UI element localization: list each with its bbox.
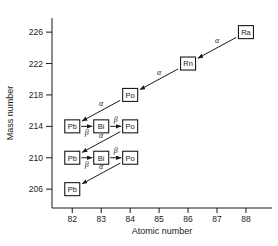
nuclide-symbol-label: Po — [126, 154, 135, 163]
decay-type-label: α — [157, 68, 162, 77]
y-tick-label: 226 — [29, 27, 43, 37]
nuclide-node-Ra-226[interactable]: Ra — [238, 26, 253, 39]
y-tick-label: 206 — [29, 184, 43, 194]
y-tick-label: 214 — [29, 121, 43, 131]
nuclide-symbol-label: Bi — [98, 122, 105, 131]
plot-axes — [52, 18, 272, 208]
nuclide-node-Pb-206[interactable]: Pb — [65, 183, 80, 196]
nuclide-symbol-label: Po — [126, 122, 135, 131]
nuclide-node-Pb-214[interactable]: Pb — [65, 120, 80, 133]
decay-type-label: α — [99, 99, 104, 108]
x-tick-label: 85 — [154, 214, 164, 224]
nuclide-node-Po-214[interactable]: Po — [123, 120, 138, 133]
nuclide-symbol-label: Rn — [183, 59, 193, 68]
nuclide-node-Bi-210[interactable]: Bi — [94, 151, 109, 164]
x-tick-label: 82 — [68, 214, 78, 224]
nuclide-symbol-label: Pb — [68, 122, 77, 131]
nuclide-boxes: RaRnPoPbBiPoPbBiPoPb — [65, 26, 254, 196]
x-tick-label: 88 — [241, 214, 251, 224]
decay-type-label: β — [84, 160, 89, 169]
nuclide-symbol-label: Pb — [68, 185, 77, 194]
nuclide-node-Bi-214[interactable]: Bi — [94, 120, 109, 133]
nuclide-node-Rn-222[interactable]: Rn — [181, 57, 196, 70]
decay-type-label: β — [113, 115, 118, 124]
nuclide-node-Pb-210[interactable]: Pb — [65, 151, 80, 164]
x-tick-label: 86 — [183, 214, 193, 224]
x-axis-title: Atomic number — [132, 226, 193, 236]
y-tick-label: 218 — [29, 90, 43, 100]
y-axis-title: Mass number — [5, 86, 15, 141]
decay-chain-figure: 206210214218222226 82838485868788 Mass n… — [0, 0, 278, 246]
decay-chain-plot: 206210214218222226 82838485868788 Mass n… — [0, 0, 278, 246]
y-axis-ticks: 206210214218222226 — [29, 27, 52, 194]
decay-type-label: β — [113, 146, 118, 155]
x-tick-label: 87 — [212, 214, 222, 224]
decay-type-label: α — [215, 36, 220, 45]
nuclide-symbol-label: Ra — [241, 28, 251, 37]
x-axis-ticks: 82838485868788 — [68, 208, 251, 224]
nuclide-symbol-label: Bi — [98, 154, 105, 163]
nuclide-symbol-label: Po — [126, 91, 135, 100]
y-tick-label: 210 — [29, 153, 43, 163]
nuclide-node-Po-210[interactable]: Po — [123, 151, 138, 164]
nuclide-symbol-label: Pb — [68, 154, 77, 163]
x-tick-label: 83 — [96, 214, 106, 224]
x-tick-label: 84 — [125, 214, 135, 224]
nuclide-node-Po-218[interactable]: Po — [123, 88, 138, 101]
decay-type-label: β — [84, 128, 89, 137]
y-tick-label: 222 — [29, 59, 43, 69]
